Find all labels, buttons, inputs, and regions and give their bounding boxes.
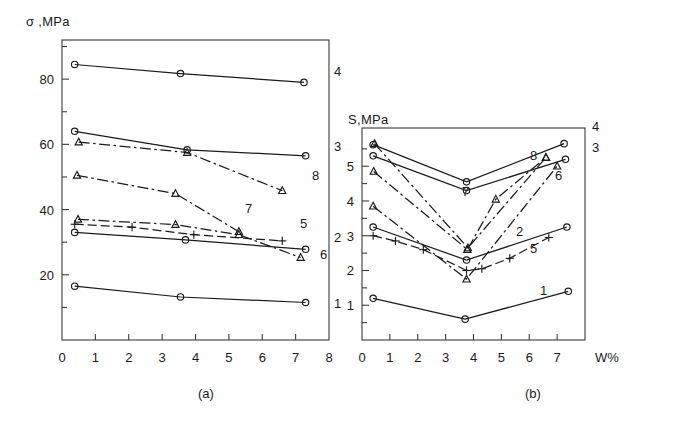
panel-a-caption: (a) <box>198 386 214 401</box>
x-tick-label: 2 <box>414 350 421 365</box>
x-tick-label: 4 <box>470 350 477 365</box>
panel-a: σ ,MPa 0123456782040608012345678 (a) <box>0 0 340 434</box>
x-tick-label: 4 <box>192 350 199 365</box>
data-line-7 <box>77 175 239 231</box>
x-tick-label: 3 <box>442 350 449 365</box>
x-axis-label: W% <box>595 350 619 365</box>
marker-triangle-6 <box>370 202 377 209</box>
y-tick-label: 5 <box>347 159 354 174</box>
curve-label-7: 7 <box>245 201 252 216</box>
y-tick-label: 80 <box>40 72 54 87</box>
panel-b: S,MPa 01234567W%1234512345678 (b) <box>340 0 679 434</box>
x-tick-label: 1 <box>92 350 99 365</box>
curve-label-2: 2 <box>516 224 523 239</box>
marker-triangle-7 <box>73 171 80 178</box>
y-tick-label: 1 <box>347 298 354 313</box>
plot-frame <box>362 128 585 340</box>
x-tick-label: 6 <box>259 350 266 365</box>
marker-triangle-8 <box>542 154 549 161</box>
data-line-4 <box>75 65 304 83</box>
curve-label-8: 8 <box>312 168 319 183</box>
x-tick-label: 5 <box>498 350 505 365</box>
curve-label-6: 6 <box>320 247 327 262</box>
panel-b-plot: 01234567W%1234512345678 <box>340 0 679 434</box>
panel-b-caption: (b) <box>525 386 541 401</box>
data-line-6 <box>78 219 301 257</box>
x-tick-label: 5 <box>225 350 232 365</box>
plot-frame <box>62 40 329 340</box>
marker-triangle-7 <box>370 168 377 175</box>
curve-label-6: 6 <box>555 168 562 183</box>
x-tick-label: 0 <box>358 350 365 365</box>
x-tick-label: 7 <box>554 350 561 365</box>
x-tick-label: 6 <box>526 350 533 365</box>
y-tick-label: 40 <box>40 203 54 218</box>
x-tick-label: 7 <box>292 350 299 365</box>
y-tick-label: 3 <box>347 229 354 244</box>
curve-label-4: 4 <box>592 119 599 134</box>
x-tick-label: 2 <box>125 350 132 365</box>
x-tick-label: 0 <box>58 350 65 365</box>
panel-a-plot: 0123456782040608012345678 <box>0 0 340 434</box>
curve-label-8: 8 <box>530 148 537 163</box>
curve-label-5: 5 <box>300 216 307 231</box>
y-tick-label: 60 <box>40 137 54 152</box>
curve-label-7: 7 <box>462 184 469 199</box>
curve-label-1: 1 <box>540 283 547 298</box>
marker-triangle-6 <box>74 215 81 222</box>
x-tick-label: 1 <box>386 350 393 365</box>
y-tick-label: 4 <box>347 194 354 209</box>
curve-label-3: 3 <box>592 140 599 155</box>
marker-triangle-8 <box>75 138 82 145</box>
y-tick-label: 2 <box>347 263 354 278</box>
curve-label-5: 5 <box>530 241 537 256</box>
x-tick-label: 8 <box>325 350 332 365</box>
y-tick-label: 20 <box>40 268 54 283</box>
data-line-1 <box>75 286 306 302</box>
x-tick-label: 3 <box>159 350 166 365</box>
